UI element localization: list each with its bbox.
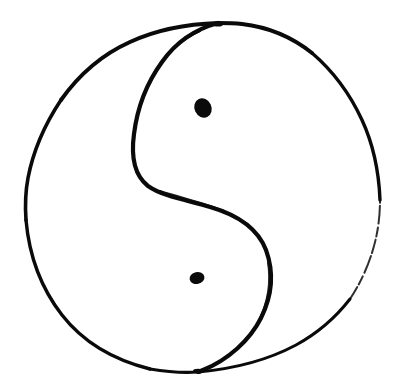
bottom-junction-blob xyxy=(193,369,203,373)
canvas-background xyxy=(0,0,398,391)
yin-yang-drawing xyxy=(0,0,398,391)
top-junction-blob xyxy=(213,21,223,26)
drawing-canvas xyxy=(0,0,398,391)
